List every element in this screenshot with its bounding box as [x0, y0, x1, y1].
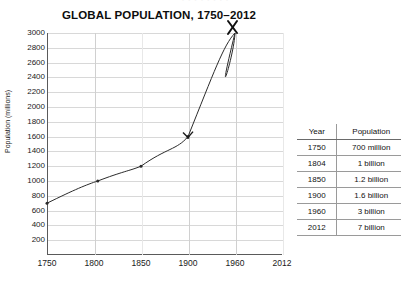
gridline-horizontal — [48, 48, 283, 49]
gridline-horizontal — [48, 181, 283, 182]
gridline-horizontal — [48, 166, 283, 167]
table-cell-population: 1.2 billion — [337, 172, 401, 188]
y-tick-label: 600 — [11, 207, 45, 215]
gridline-horizontal — [48, 196, 283, 197]
gridline-vertical — [236, 33, 237, 255]
y-tick-label: 1400 — [11, 147, 45, 155]
table-cell-population: 1.6 billion — [337, 188, 401, 204]
chart-title: GLOBAL POPULATION, 1750–2012 — [34, 9, 284, 21]
x-tick-label: 2012 — [262, 259, 302, 268]
chart-page: · · · · · · · · GLOBAL POPULATION, 1750–… — [0, 0, 411, 293]
population-table: Year Population 1750700 million18041 bil… — [297, 124, 401, 236]
table-row: 18041 billion — [297, 156, 401, 172]
gridline-vertical — [283, 33, 284, 255]
table-row: 18501.2 billion — [297, 172, 401, 188]
y-tick-label: 2800 — [11, 44, 45, 52]
gridline-horizontal — [48, 137, 283, 138]
table-cell-year: 1750 — [297, 140, 337, 156]
x-tick-label: 1800 — [74, 259, 114, 268]
table-row: 19001.6 billion — [297, 188, 401, 204]
table-cell-year: 1900 — [297, 188, 337, 204]
y-tick-label: 200 — [11, 236, 45, 244]
gridline-horizontal — [48, 240, 283, 241]
gridline-horizontal — [48, 92, 283, 93]
table-cell-population: 700 million — [337, 140, 401, 156]
y-tick-label: 2400 — [11, 73, 45, 81]
y-axis-ticks: 2004006008001000120014001600180020002200… — [9, 33, 45, 255]
gridlines — [48, 33, 282, 254]
x-tick-label: 1900 — [168, 259, 208, 268]
table-cell-population: 1 billion — [337, 156, 401, 172]
scan-bleed-text: · · · · · · · · — [0, 0, 411, 6]
table-body: 1750700 million18041 billion18501.2 bill… — [297, 140, 401, 236]
gridline-horizontal — [48, 225, 283, 226]
table-cell-year: 1850 — [297, 172, 337, 188]
gridline-horizontal — [48, 122, 283, 123]
gridline-horizontal — [48, 33, 283, 34]
y-tick-label: 1200 — [11, 162, 45, 170]
gridline-vertical — [95, 33, 96, 255]
gridline-vertical — [142, 33, 143, 255]
table-cell-population: 7 billion — [337, 220, 401, 236]
y-tick-label: 1600 — [11, 133, 45, 141]
gridline-horizontal — [48, 107, 283, 108]
table-header-row: Year Population — [297, 124, 401, 140]
table-cell-population: 3 billion — [337, 204, 401, 220]
x-tick-label: 1750 — [27, 259, 67, 268]
table-row: 1750700 million — [297, 140, 401, 156]
y-tick-label: 1000 — [11, 177, 45, 185]
gridline-horizontal — [48, 151, 283, 152]
gridline-horizontal — [48, 211, 283, 212]
gridline-vertical — [189, 33, 190, 255]
table-cell-year: 1960 — [297, 204, 337, 220]
table-row: 19603 billion — [297, 204, 401, 220]
y-tick-label: 2000 — [11, 103, 45, 111]
y-tick-label: 800 — [11, 192, 45, 200]
x-tick-label: 1960 — [215, 259, 255, 268]
table-cell-year: 1804 — [297, 156, 337, 172]
y-tick-label: 2600 — [11, 59, 45, 67]
x-tick-label: 1850 — [121, 259, 161, 268]
table-row: 20127 billion — [297, 220, 401, 236]
y-tick-label: 3000 — [11, 29, 45, 37]
y-tick-label: 2200 — [11, 88, 45, 96]
y-tick-label: 400 — [11, 221, 45, 229]
plot-area — [47, 33, 282, 255]
gridline-horizontal — [48, 77, 283, 78]
table-header-population: Population — [337, 124, 401, 140]
table-cell-year: 2012 — [297, 220, 337, 236]
y-axis-title: Population (millions) — [4, 67, 11, 177]
gridline-horizontal — [48, 63, 283, 64]
y-tick-label: 1800 — [11, 118, 45, 126]
table-header-year: Year — [297, 124, 337, 140]
